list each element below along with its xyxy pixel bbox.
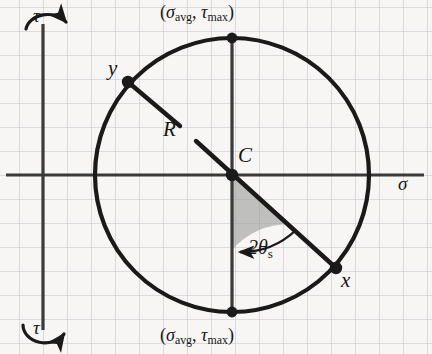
mohrs-circle-figure: y x C R σ τ τ (σavg, τmax) (σavg, τmax) … (0, 0, 432, 354)
center-label-c: C (238, 145, 252, 166)
tau-axis-label-top: τ (33, 6, 40, 25)
tau-axis-label-bottom: τ (33, 318, 40, 337)
sigma-axis-label: σ (398, 174, 407, 193)
point-label-x: x (341, 270, 350, 291)
tau-subscript: max (208, 333, 228, 347)
point-dot-y (122, 76, 134, 88)
mohrs-circle-canvas (0, 0, 432, 354)
sigma-glyph: σ (166, 325, 175, 345)
comma-separator: , (192, 325, 201, 345)
sigma-glyph: σ (166, 2, 175, 22)
point-label-tau-max-bottom: (σavg, τmax) (160, 326, 234, 347)
theta-subscript: s (268, 246, 273, 261)
point-dot-tau-max-top (227, 33, 238, 44)
angle-label-two-theta-s: 2θs (248, 237, 273, 260)
comma-separator: , (192, 2, 201, 22)
paren-close: ) (228, 2, 234, 22)
point-label-y: y (108, 58, 117, 79)
paren-close: ) (228, 325, 234, 345)
angle-coefficient: 2 (248, 236, 258, 258)
theta-glyph: θ (258, 236, 268, 258)
sigma-subscript: avg (175, 10, 192, 24)
tau-subscript: max (208, 10, 228, 24)
point-dot-center (226, 169, 238, 181)
point-dot-tau-max-bottom (227, 307, 238, 318)
point-label-tau-max-top: (σavg, τmax) (160, 3, 234, 24)
radius-label-r: R (163, 119, 176, 140)
sigma-subscript: avg (175, 333, 192, 347)
